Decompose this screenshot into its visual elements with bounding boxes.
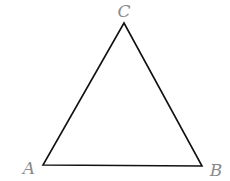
vertex-label-a: A — [23, 160, 35, 177]
triangle-abc — [43, 23, 202, 166]
triangle-svg — [0, 0, 230, 181]
triangle-diagram: C A B — [0, 0, 230, 181]
vertex-label-c: C — [117, 3, 130, 20]
vertex-label-b: B — [210, 162, 223, 179]
